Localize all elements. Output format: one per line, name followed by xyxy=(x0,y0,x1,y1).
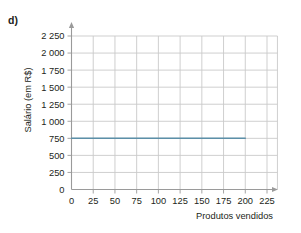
y-tick-label: 1 250 xyxy=(41,100,64,110)
y-tick-label: 0 xyxy=(59,185,64,195)
y-tick-label: 1 500 xyxy=(41,83,64,93)
y-tick-label: 250 xyxy=(49,168,65,178)
x-tick-label: 25 xyxy=(88,196,98,206)
plot-area: 025507510012515017520022502505007501 000… xyxy=(0,0,301,233)
y-tick-label: 500 xyxy=(49,151,65,161)
x-tick-label: 150 xyxy=(194,196,210,206)
x-tick-label: 100 xyxy=(151,196,167,206)
x-tick-label: 200 xyxy=(238,196,254,206)
x-tick-label: 225 xyxy=(259,196,275,206)
y-axis-arrow-icon xyxy=(69,22,74,28)
x-tick-label: 125 xyxy=(172,196,188,206)
x-tick-label: 75 xyxy=(131,196,141,206)
y-tick-label: 750 xyxy=(49,134,65,144)
x-tick-label: 175 xyxy=(216,196,232,206)
y-tick-label: 1 000 xyxy=(41,117,64,127)
x-tick-label: 50 xyxy=(110,196,120,206)
y-tick-label: 2 000 xyxy=(41,48,64,58)
y-tick-label: 1 750 xyxy=(41,66,64,76)
x-tick-label: 0 xyxy=(69,196,74,206)
y-tick-label: 2 250 xyxy=(41,31,64,41)
chart-figure: d) Salário (em R$) Produtos vendidos 025… xyxy=(0,0,301,233)
